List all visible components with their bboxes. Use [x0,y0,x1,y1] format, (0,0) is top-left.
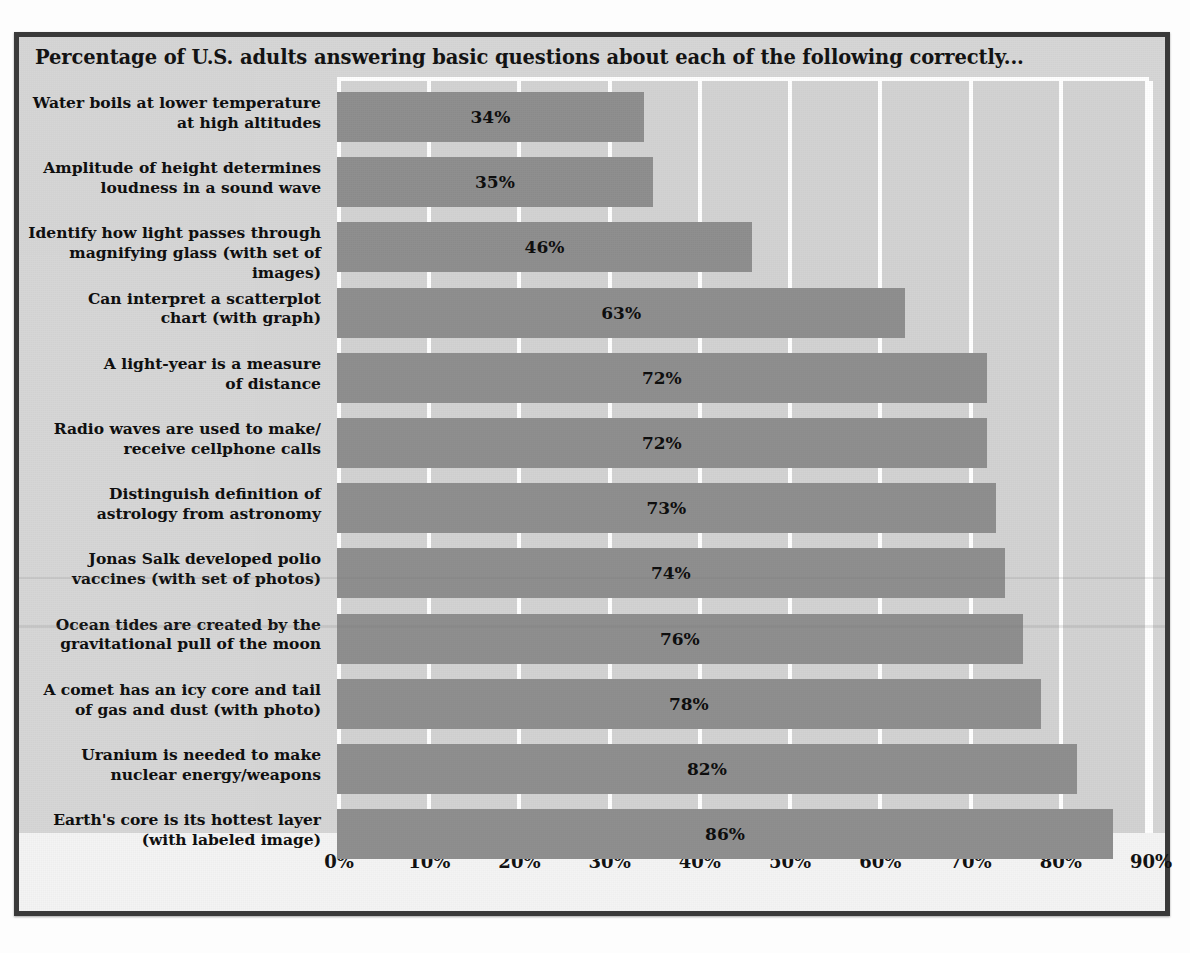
category-label-line: Distinguish definition of [19,484,321,504]
chart-title: Percentage of U.S. adults answering basi… [35,46,1135,69]
chart-page: Percentage of U.S. adults answering basi… [0,0,1190,953]
category-label-line: loudness in a sound wave [19,178,321,198]
category-label-line: Earth's core is its hottest layer [19,810,321,830]
category-label-line: receive cellphone calls [19,439,321,459]
bar-value-label: 72% [642,368,682,388]
category-label-line: vaccines (with set of photos) [19,569,321,589]
category-label: A comet has an icy core and tailof gas a… [19,680,321,720]
category-label-line: A light-year is a measure [19,354,321,374]
category-label-line: chart (with graph) [19,308,321,328]
x-axis-tick-label: 90% [1130,851,1172,872]
category-label: Radio waves are used to make/receive cel… [19,419,321,459]
category-label: Amplitude of height determinesloudness i… [19,158,321,198]
bar-value-label: 76% [660,629,700,649]
chart-body: Water boils at lower temperatureat high … [19,77,1165,833]
category-label: Can interpret a scatterplotchart (with g… [19,289,321,329]
category-label-line: Identify how light passes through [19,223,321,243]
category-label: Ocean tides are created by thegravitatio… [19,615,321,655]
category-label: Distinguish definition ofastrology from … [19,484,321,524]
category-label-line: Uranium is needed to make [19,745,321,765]
category-label: Water boils at lower temperatureat high … [19,93,321,133]
category-label-line: Can interpret a scatterplot [19,289,321,309]
category-label: Jonas Salk developed poliovaccines (with… [19,549,321,589]
category-label-line: gravitational pull of the moon [19,634,321,654]
gridline-80 [1059,81,1063,833]
category-label-line: magnifying glass (with set of images) [19,243,321,283]
category-label: A light-year is a measureof distance [19,354,321,394]
bar-value-label: 34% [470,107,510,127]
category-label-line: Ocean tides are created by the [19,615,321,635]
category-label-column: Water boils at lower temperatureat high … [19,77,329,833]
category-label-line: at high altitudes [19,113,321,133]
bar-value-label: 74% [651,563,691,583]
category-label-line: Jonas Salk developed polio [19,549,321,569]
bar-value-label: 73% [646,498,686,518]
category-label-line: astrology from astronomy [19,504,321,524]
bar-value-label: 46% [525,237,565,257]
gridline-90 [1149,81,1153,833]
category-label-line: (with labeled image) [19,830,321,850]
bar-value-label: 35% [475,172,515,192]
bar-value-label: 78% [669,694,709,714]
category-label: Earth's core is its hottest layer(with l… [19,810,321,850]
category-label-line: Radio waves are used to make/ [19,419,321,439]
category-label: Uranium is needed to makenuclear energy/… [19,745,321,785]
plot-area: 34%35%46%63%72%72%73%74%76%78%82%86% [337,77,1149,833]
category-label-line: Water boils at lower temperature [19,93,321,113]
chart-frame: Percentage of U.S. adults answering basi… [14,32,1170,916]
category-label-line: of distance [19,374,321,394]
bar-value-label: 63% [601,303,641,323]
bar-value-label: 86% [705,824,745,844]
category-label-line: of gas and dust (with photo) [19,700,321,720]
category-label-line: nuclear energy/weapons [19,765,321,785]
category-label-line: A comet has an icy core and tail [19,680,321,700]
bar-value-label: 82% [687,759,727,779]
category-label-line: Amplitude of height determines [19,158,321,178]
bar-value-label: 72% [642,433,682,453]
category-label: Identify how light passes throughmagnify… [19,223,321,282]
